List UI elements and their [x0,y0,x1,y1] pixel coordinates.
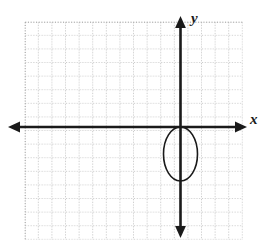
coordinate-plane: y x [0,0,261,249]
y-axis-label: y [189,10,198,26]
x-axis-label: x [249,111,258,127]
grid-lines [25,22,243,240]
x-axis-left-arrowhead [8,122,20,133]
graph-figure: y x [0,0,261,249]
